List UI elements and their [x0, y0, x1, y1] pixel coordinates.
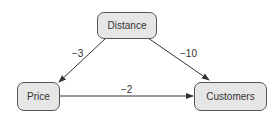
node-price: Price: [17, 82, 60, 111]
edge-distance-price: [59, 38, 106, 82]
node-distance-label: Distance: [108, 20, 147, 31]
edge-label-distance-price: −3: [72, 48, 83, 59]
edge-label-distance-customers: −10: [180, 48, 197, 59]
node-customers: Customers: [194, 82, 267, 111]
edge-label-price-customers: −2: [121, 84, 132, 95]
node-distance: Distance: [97, 12, 157, 39]
node-price-label: Price: [27, 91, 50, 102]
edge-distance-customers: [148, 38, 209, 80]
node-customers-label: Customers: [206, 91, 254, 102]
